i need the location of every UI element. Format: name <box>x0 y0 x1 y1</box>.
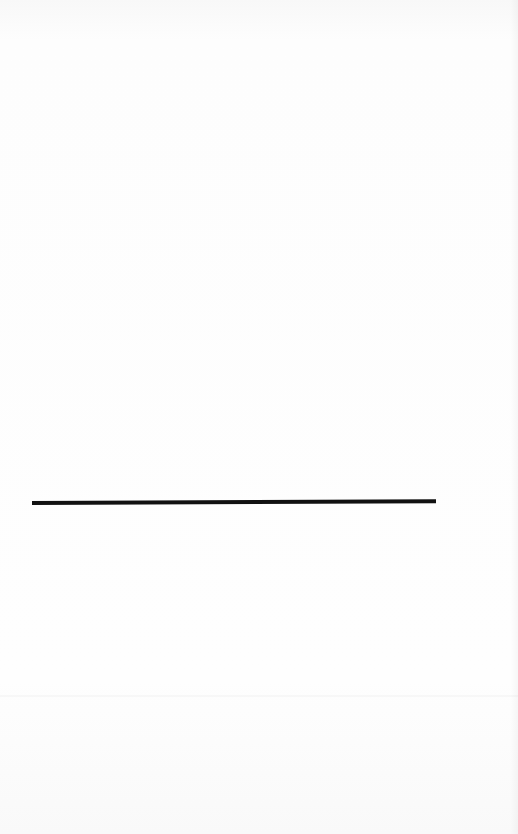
signature-line <box>32 499 436 505</box>
paper-crease <box>0 695 518 697</box>
document-page <box>0 0 518 834</box>
page-edge-shadow <box>510 0 518 834</box>
